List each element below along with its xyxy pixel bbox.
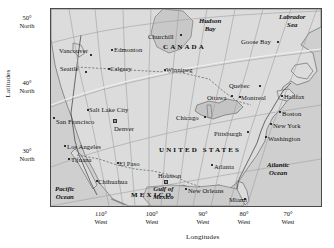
city-dot-salt-lake-city: [87, 109, 89, 111]
city-label-halifax: Halifax: [284, 93, 304, 100]
latitude-tick-30-deg: 30°: [8, 147, 46, 155]
city-dot-ottawa: [231, 95, 233, 97]
city-label-atlanta: Atlanta: [214, 163, 234, 170]
longitude-tick-100: 100° West: [132, 210, 172, 226]
city-dot-los-angeles: [64, 145, 66, 147]
latitude-tick-40-deg: 40°: [8, 79, 46, 87]
city-label-vancouver: Vancouver: [59, 47, 88, 54]
city-dot-winnipeg: [164, 69, 166, 71]
longitude-tick-110-dir: West: [81, 218, 121, 226]
city-dot-chicago: [204, 116, 206, 118]
city-label-goose-bay: Goose Bay: [241, 38, 271, 45]
city-label-el-paso: El Paso: [119, 160, 140, 167]
longitude-tick-110: 110° West: [81, 210, 121, 226]
city-dot-washington: [265, 136, 267, 138]
water-label-hudson-bay: HudsonBay: [199, 17, 221, 33]
longitude-tick-90: 90° West: [183, 210, 223, 226]
city-label-churchill: Churchill: [148, 33, 174, 40]
city-label-san-francisco: San Francisco: [56, 118, 94, 125]
city-dot-chihuahua: [96, 180, 98, 182]
longitude-tick-80-dir: West: [224, 218, 264, 226]
city-label-new-york: New York: [273, 122, 301, 129]
city-dot-new-york: [270, 123, 272, 125]
city-label-montreal: Montreal: [241, 94, 266, 101]
city-label-seattle: Seattle: [60, 65, 79, 72]
longitude-tick-100-dir: West: [132, 218, 172, 226]
city-label-winnipeg: Winnipeg: [166, 66, 193, 73]
city-dot-montreal: [239, 96, 241, 98]
city-label-ottawa: Ottawa: [207, 94, 227, 101]
longitude-tick-80-deg: 80°: [224, 210, 264, 218]
city-dot-new-orleans: [185, 188, 187, 190]
city-dot-san-francisco: [53, 117, 55, 119]
longitude-tick-90-dir: West: [183, 218, 223, 226]
city-label-washington: Washington: [268, 135, 300, 142]
city-label-tijuana: Tijuana: [71, 156, 92, 163]
city-dot-quebec: [259, 85, 261, 87]
water-label-pacific-ocean: PacificOcean: [55, 185, 75, 201]
city-label-edmonton: Edmonton: [114, 46, 142, 53]
longitude-tick-110-deg: 110°: [81, 210, 121, 218]
city-label-houston: Houston: [158, 172, 181, 179]
latitude-tick-30-dir: North: [8, 155, 46, 163]
latitude-tick-40-dir: North: [8, 87, 46, 95]
city-dot-seattle: [85, 71, 87, 73]
longitude-tick-70-deg: 70°: [268, 210, 308, 218]
city-dot-pittsburgh: [247, 131, 249, 133]
water-label-atlantic-ocean: AtlanticOcean: [267, 161, 289, 177]
longitude-tick-80: 80° West: [224, 210, 264, 226]
city-label-chicago: Chicago: [176, 114, 199, 121]
city-dot-calgary: [108, 68, 110, 70]
city-dot-goose-bay: [277, 41, 279, 43]
city-label-calgary: Calgary: [110, 65, 132, 72]
city-label-quebec: Quebec: [229, 82, 250, 89]
longitude-tick-70: 70° West: [268, 210, 308, 226]
city-dot-halifax: [281, 95, 283, 97]
city-label-denver: Denver: [114, 125, 134, 132]
map-figure: Latitudes 50° North 40° North 30° North …: [0, 0, 334, 248]
city-dot-vancouver: [90, 54, 92, 56]
latitude-tick-50-dir: North: [8, 22, 46, 30]
city-label-pittsburgh: Pittsburgh: [214, 130, 242, 137]
city-dot-atlanta: [211, 164, 213, 166]
city-label-chihuahua: Chihuahua: [98, 178, 127, 185]
city-label-salt-lake-city: Salt Lake City: [89, 106, 129, 113]
city-label-boston: Boston: [282, 110, 301, 117]
longitude-tick-90-deg: 90°: [183, 210, 223, 218]
city-label-los-angeles: Los Angeles: [67, 143, 101, 150]
country-label-united-states: UNITED STATES: [159, 146, 241, 154]
city-dot-boston: [279, 111, 281, 113]
city-marker-houston: [164, 180, 168, 184]
country-label-canada: CANADA: [163, 43, 206, 51]
lake-michigan: [207, 105, 212, 118]
latitude-tick-40: 40° North: [8, 79, 46, 95]
longitude-axis-caption: Longitudes: [186, 233, 220, 241]
latitude-tick-50: 50° North: [8, 14, 46, 30]
map-canvas[interactable]: CANADA UNITED STATES MEXICO HudsonBay La…: [50, 8, 322, 207]
city-label-new-orleans: New Orleans: [188, 187, 224, 194]
longitude-tick-70-dir: West: [268, 218, 308, 226]
city-marker-denver: [113, 119, 117, 123]
water-label-gulf-of-mexico: Gulf ofMexico: [153, 185, 174, 201]
latitude-tick-30: 30° North: [8, 147, 46, 163]
water-label-labrador-sea: LabradorSea: [279, 13, 305, 29]
city-dot-edmonton: [111, 49, 113, 51]
city-dot-churchill: [180, 34, 182, 36]
longitude-tick-100-deg: 100°: [132, 210, 172, 218]
city-dot-tijuana: [68, 158, 70, 160]
city-dot-el-paso: [117, 162, 119, 164]
latitude-tick-50-deg: 50°: [8, 14, 46, 22]
city-dot-miami: [244, 198, 246, 200]
